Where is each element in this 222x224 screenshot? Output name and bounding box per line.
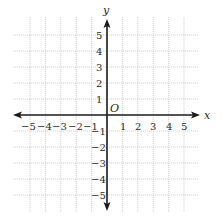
y-tick-label: −4 bbox=[91, 174, 106, 185]
x-tick-label: −2 bbox=[68, 121, 83, 132]
x-tick-label: −4 bbox=[37, 121, 52, 132]
y-tick-label: 3 bbox=[96, 62, 102, 73]
y-tick-label: −5 bbox=[91, 190, 106, 201]
y-tick-label: −1 bbox=[91, 126, 106, 137]
y-tick-label: 1 bbox=[96, 94, 102, 105]
y-tick-label: −3 bbox=[91, 158, 106, 169]
x-tick-label: 5 bbox=[181, 121, 187, 132]
x-tick-label: 3 bbox=[150, 121, 156, 132]
x-tick-label: 1 bbox=[120, 121, 126, 132]
x-tick-label: 4 bbox=[166, 121, 172, 132]
x-tick-label: −3 bbox=[52, 121, 67, 132]
y-tick-label: 2 bbox=[96, 78, 102, 89]
y-tick-label: −2 bbox=[91, 142, 106, 153]
x-tick-label: 2 bbox=[135, 121, 141, 132]
y-axis-label: y bbox=[102, 4, 110, 17]
origin-label: O bbox=[110, 102, 119, 115]
x-tick-label: −5 bbox=[21, 121, 36, 132]
x-axis-label: x bbox=[204, 109, 211, 122]
y-tick-label: 5 bbox=[96, 30, 102, 41]
y-tick-label: 4 bbox=[96, 46, 102, 57]
coordinate-plane: y x O −5 −4 −3 −2 −1 1 2 3 4 5 5 4 3 2 1… bbox=[0, 0, 222, 224]
